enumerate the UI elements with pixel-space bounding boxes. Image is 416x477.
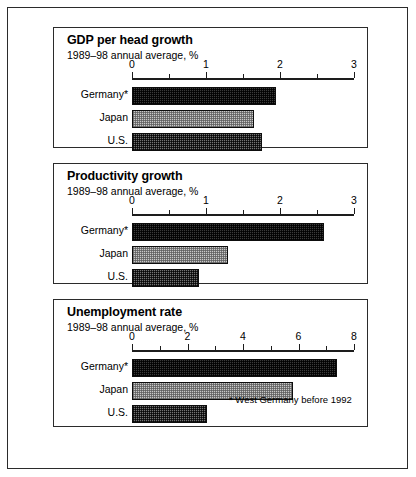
bar [132,223,324,241]
category-label: U.S. [108,134,128,146]
x-tick-minor [169,210,170,214]
x-tick-label: 2 [185,330,191,342]
x-tick-major [132,344,133,350]
chart-panel-productivity-growth: Productivity growth 1989–98 annual avera… [53,163,368,284]
x-tick-minor [243,210,244,214]
x-tick-major [206,72,207,78]
plot-area: 02468 Germany*JapanU.S. [132,337,354,417]
x-tick-major [243,344,244,350]
category-label: Germany* [81,224,128,236]
chart-panel-unemployment-rate: Unemployment rate 1989–98 annual average… [53,299,368,427]
bar [132,405,207,423]
footnote-west-germany: * West Germany before 1992 [229,394,352,405]
x-tick-label: 0 [129,194,135,206]
figure-root: GDP per head growth 1989–98 annual avera… [0,0,416,477]
bar [132,133,262,151]
bar-row: U.S. [132,133,354,151]
chart-panel-gdp-per-head-growth: GDP per head growth 1989–98 annual avera… [53,27,368,148]
category-label: U.S. [108,406,128,418]
bar-row: U.S. [132,405,354,423]
x-tick-major [354,344,355,350]
bar [132,269,199,287]
panel-title: Productivity growth [67,169,182,183]
x-tick-label: 3 [351,194,357,206]
x-tick-major [280,72,281,78]
bar-row: U.S. [132,269,354,287]
plot-area: 0123 Germany*JapanU.S. [132,201,354,281]
bar [132,246,228,264]
bar-row: Japan [132,246,354,264]
x-tick-major [132,72,133,78]
category-label: U.S. [108,270,128,282]
x-tick-minor [317,210,318,214]
x-tick-label: 1 [203,194,209,206]
x-tick-label: 0 [129,58,135,70]
x-tick-minor [243,74,244,78]
x-tick-label: 2 [277,58,283,70]
x-axis-line [132,214,354,216]
bar [132,87,276,105]
x-tick-major [354,72,355,78]
bar-row: Germany* [132,87,354,105]
category-label: Germany* [81,88,128,100]
x-tick-minor [215,346,216,350]
x-tick-major [188,344,189,350]
x-tick-minor [326,346,327,350]
x-tick-label: 4 [240,330,246,342]
category-label: Japan [99,111,128,123]
x-tick-major [354,208,355,214]
category-label: Germany* [81,360,128,372]
x-tick-label: 6 [296,330,302,342]
x-tick-major [206,208,207,214]
panel-title: GDP per head growth [67,33,193,47]
bar-row: Germany* [132,223,354,241]
panel-title: Unemployment rate [67,305,182,319]
x-tick-minor [169,74,170,78]
x-tick-major [132,208,133,214]
x-tick-label: 1 [203,58,209,70]
plot-area: 0123 Germany*JapanU.S. [132,65,354,145]
x-tick-minor [271,346,272,350]
category-label: Japan [99,247,128,259]
x-tick-minor [160,346,161,350]
bar-row: Germany* [132,359,354,377]
x-tick-major [280,208,281,214]
x-tick-label: 8 [351,330,357,342]
bar [132,359,337,377]
x-axis-line [132,78,354,80]
x-tick-minor [317,74,318,78]
x-tick-label: 0 [129,330,135,342]
x-axis-line [132,350,354,352]
category-label: Japan [99,383,128,395]
bar-row: Japan [132,110,354,128]
x-tick-label: 3 [351,58,357,70]
x-tick-major [299,344,300,350]
x-tick-label: 2 [277,194,283,206]
bar [132,110,254,128]
